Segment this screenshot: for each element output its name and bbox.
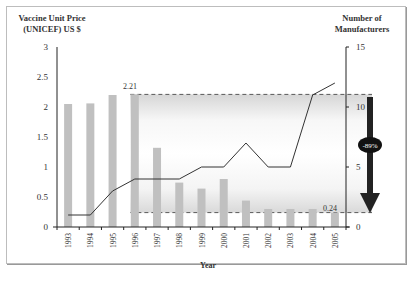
price-bar bbox=[175, 183, 183, 227]
x-tick-label: 2002 bbox=[264, 233, 273, 248]
price-bar bbox=[64, 104, 72, 227]
x-tick-label: 1996 bbox=[131, 233, 140, 248]
price-bar bbox=[153, 148, 161, 227]
price-bar bbox=[331, 213, 339, 227]
y-axis-title-line2: (UNICEF) US $ bbox=[23, 24, 81, 34]
y2-tick-label: 15 bbox=[356, 42, 366, 52]
price-bar bbox=[198, 189, 206, 227]
y-axis-title-line1: Vaccine Unit Price bbox=[18, 13, 85, 23]
y-tick-label: 1 bbox=[44, 162, 49, 172]
y2-tick-label: 0 bbox=[356, 222, 361, 232]
x-tick-label: 2000 bbox=[220, 233, 229, 248]
price-bar bbox=[131, 94, 139, 227]
x-tick-label: 2001 bbox=[242, 233, 251, 248]
price-bar bbox=[242, 201, 250, 227]
price-bar bbox=[86, 103, 94, 227]
low-price-label: 0.24 bbox=[323, 204, 337, 213]
x-tick-label: 1998 bbox=[175, 233, 184, 248]
x-tick-label: 1994 bbox=[86, 233, 95, 248]
x-tick-label: 2003 bbox=[286, 233, 295, 248]
price-bar bbox=[286, 209, 294, 227]
x-tick-label: 2005 bbox=[331, 233, 340, 248]
x-tick-label: 1995 bbox=[109, 233, 118, 248]
x-axis-title: Year bbox=[200, 261, 216, 270]
y2-tick-label: 10 bbox=[356, 102, 366, 112]
y-tick-label: 2.5 bbox=[37, 72, 49, 82]
x-tick-label: 2004 bbox=[309, 233, 318, 248]
y-tick-label: 1.5 bbox=[37, 132, 49, 142]
decrease-percent-label: -89% bbox=[362, 142, 377, 150]
high-price-label: 2.21 bbox=[123, 82, 137, 91]
price-bar bbox=[309, 209, 317, 227]
y2-tick-label: 5 bbox=[356, 162, 361, 172]
price-bar bbox=[220, 179, 228, 227]
y-tick-label: 0.5 bbox=[37, 192, 49, 202]
price-drop-band bbox=[130, 94, 372, 212]
x-tick-label: 1997 bbox=[153, 233, 162, 248]
y-tick-label: 0 bbox=[44, 222, 49, 232]
price-bar bbox=[264, 209, 272, 227]
y2-axis-title-line2: Manufacturers bbox=[335, 24, 390, 34]
y-tick-label: 2 bbox=[44, 102, 49, 112]
x-tick-label: 1993 bbox=[64, 233, 73, 248]
price-manufacturers-chart: 00.511.522.53051015199319941995199619971… bbox=[0, 0, 408, 294]
x-tick-label: 1999 bbox=[198, 233, 207, 248]
y2-axis-title-line1: Number of bbox=[342, 13, 381, 23]
price-bar bbox=[109, 95, 117, 227]
y-tick-label: 3 bbox=[44, 42, 49, 52]
